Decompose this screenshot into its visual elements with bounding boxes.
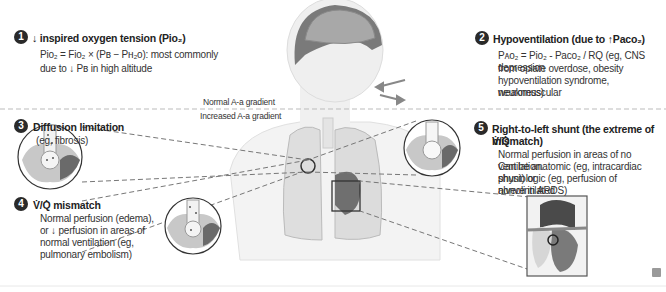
normal-gradient-label: Normal A-a gradient: [203, 97, 275, 107]
section-3-title: Diffusion limitation: [33, 121, 124, 133]
section-2-title: Hypoventilation (due to ↑Paco₂): [493, 33, 645, 45]
logo-icon: [652, 268, 661, 277]
section-4-line-2: or ↓ perfusion in areas of: [40, 225, 145, 237]
section-1-title: ↓ inspired oxygen tension (Pio₂): [32, 32, 185, 44]
section-4-line-3: normal ventilation (eg,: [40, 237, 134, 249]
section-2-line-4: weakness): [498, 87, 544, 99]
increased-gradient-label: Increased A-a gradient: [200, 111, 281, 121]
step-badge-4: 4: [14, 197, 28, 211]
alveolus-icon-vq: [165, 198, 221, 254]
step-badge-5: 5: [474, 121, 488, 135]
section-3-line-1: (eg, fibrosis): [36, 135, 88, 147]
alveolus-icon-shunt: [404, 120, 460, 176]
heart-detail-icon: [527, 196, 587, 276]
section-1-line-1: Pio₂ = Fio₂ × (Pʙ − Pʜ₂o): most commonly: [40, 49, 218, 61]
section-4-title: V̇/Q̇ mismatch: [33, 199, 101, 211]
step-badge-1: 1: [14, 30, 28, 44]
section-4-line-4: pulmonary embolism): [40, 249, 132, 261]
section-5-title-cont: mismatch): [492, 135, 543, 147]
step-badge-2: 2: [475, 31, 489, 45]
step-badge-3: 3: [14, 119, 28, 133]
left-lung: [283, 127, 322, 240]
airflow-arrow-icon: [376, 80, 405, 104]
section-2-line-2: from opiate overdose, obesity: [498, 63, 623, 75]
section-1-line-2: due to ↓ Pʙ in high altitude: [40, 63, 152, 75]
section-5-line-4: alveoli in ARDS): [498, 185, 567, 197]
section-4-line-1: Normal perfusion (edema),: [40, 213, 154, 225]
